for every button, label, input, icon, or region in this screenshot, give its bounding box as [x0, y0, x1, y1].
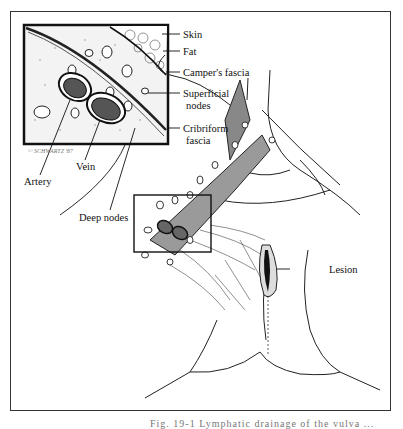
label-superficial-nodes-line1: Superficial	[183, 88, 229, 99]
inset-cross-section	[24, 25, 168, 144]
figure-caption: Fig. 19-1 Lymphatic drainage of the vulv…	[150, 418, 374, 429]
artist-signature: © SCHWARTZ '87	[28, 146, 73, 157]
label-fat: Fat	[183, 46, 196, 57]
label-campers-fascia: Camper's fascia	[183, 67, 249, 78]
label-lesion: Lesion	[329, 264, 358, 275]
label-deep-nodes: Deep nodes	[79, 212, 128, 223]
label-skin: Skin	[183, 29, 202, 40]
lesion-area	[259, 245, 277, 355]
label-cribriform-fascia-line1: Cribriform	[183, 123, 229, 134]
label-artery: Artery	[24, 176, 51, 187]
label-vein: Vein	[76, 161, 95, 172]
label-cribriform-fascia-line2: fascia	[186, 135, 210, 146]
label-superficial-nodes-line2: nodes	[186, 100, 211, 111]
